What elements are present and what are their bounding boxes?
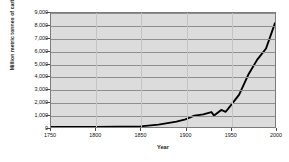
gridline: [51, 103, 275, 104]
y-axis-tick-labels: 01,0002,0003,0004,0005,0006,0007,0008,00…: [26, 12, 48, 128]
y-axis-title: Million metric tonnes of carbon dioxide: [9, 0, 15, 77]
x-tick-label: 1750: [44, 132, 56, 138]
vertical-gridline: [187, 13, 188, 127]
plot-area: [50, 12, 276, 128]
gridline: [51, 116, 275, 117]
x-tick-mark: [186, 128, 187, 131]
x-axis-tick-labels: 175018001850190019502000: [50, 132, 276, 142]
y-tick-mark: [46, 64, 50, 65]
x-tick-mark: [95, 128, 96, 131]
x-tick-mark: [140, 128, 141, 131]
co2-emissions-chart: Million metric tonnes of carbon dioxide …: [0, 0, 289, 162]
emissions-line-series: [51, 13, 275, 127]
x-tick-label: 1950: [225, 132, 237, 138]
y-tick-mark: [46, 76, 50, 77]
vertical-gridline: [232, 13, 233, 127]
y-tick-mark: [46, 38, 50, 39]
gridline: [51, 13, 275, 14]
gridline: [51, 39, 275, 40]
gridline: [51, 52, 275, 53]
gridline: [51, 90, 275, 91]
gridline: [51, 65, 275, 66]
y-tick-mark: [46, 51, 50, 52]
vertical-gridline: [96, 13, 97, 127]
y-tick-mark: [46, 102, 50, 103]
gridline: [51, 77, 275, 78]
y-tick-mark: [46, 89, 50, 90]
y-tick-mark: [46, 25, 50, 26]
y-tick-mark: [46, 12, 50, 13]
x-tick-mark: [276, 128, 277, 131]
gridline: [51, 26, 275, 27]
x-tick-label: 2000: [270, 132, 282, 138]
vertical-gridline: [141, 13, 142, 127]
x-tick-label: 1850: [134, 132, 146, 138]
x-tick-label: 1900: [180, 132, 192, 138]
x-tick-label: 1800: [89, 132, 101, 138]
x-tick-mark: [50, 128, 51, 131]
x-tick-mark: [231, 128, 232, 131]
x-axis-title: Year: [50, 144, 276, 150]
y-tick-mark: [46, 115, 50, 116]
